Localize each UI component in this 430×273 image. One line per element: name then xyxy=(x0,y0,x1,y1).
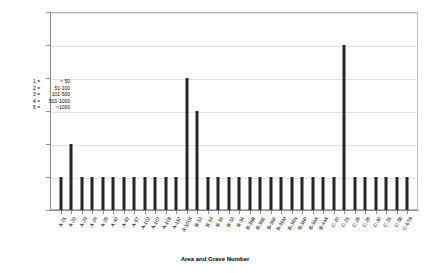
x-tick-label: A-107 xyxy=(150,216,161,230)
x-tick-mark xyxy=(397,211,398,214)
bar xyxy=(133,177,136,210)
legend-entry: 2 =51-100 xyxy=(33,85,70,92)
x-tick-mark xyxy=(61,211,62,214)
bar xyxy=(112,177,115,210)
bar xyxy=(269,177,272,210)
bar xyxy=(301,177,304,210)
x-tick-mark xyxy=(344,211,345,214)
x-tick-label: A-25 xyxy=(99,216,109,228)
legend-code: 4 = xyxy=(33,98,40,104)
x-tick-label: C-31 xyxy=(383,216,393,228)
bar xyxy=(374,177,377,210)
legend-range: >1000 xyxy=(40,104,70,111)
x-axis-title: Area and Grave Number xyxy=(0,255,430,263)
x-tick-label: A-22 xyxy=(68,216,78,228)
x-tick-mark xyxy=(260,211,261,214)
x-tick-label: B-32 xyxy=(225,216,235,228)
bar xyxy=(364,177,367,210)
x-tick-mark xyxy=(292,211,293,214)
bar xyxy=(385,177,388,210)
x-tick-mark xyxy=(355,211,356,214)
legend-range: < 50 xyxy=(40,78,70,85)
x-tick-mark xyxy=(208,211,209,214)
legend-range: 501-1000 xyxy=(40,98,70,105)
x-tick-mark xyxy=(92,211,93,214)
legend-range: 51-100 xyxy=(40,85,70,92)
x-tick-label: A-40 xyxy=(110,216,120,228)
legend: 1 =< 502 =51-1003 =101-5004 =501-10005 =… xyxy=(33,78,70,111)
x-tick-mark xyxy=(250,211,251,214)
bar xyxy=(206,177,209,210)
x-tick-label: B-36N xyxy=(287,216,298,231)
x-tick-mark xyxy=(365,211,366,214)
x-tick-label: C-26 xyxy=(362,216,372,228)
bar xyxy=(70,144,73,210)
x-tick-label: C-30 xyxy=(373,216,383,228)
x-tick-label: C-25 xyxy=(351,216,361,228)
bar xyxy=(238,177,241,210)
x-tick-mark xyxy=(271,211,272,214)
x-tick-mark xyxy=(239,211,240,214)
bar xyxy=(311,177,314,210)
x-tick-mark xyxy=(103,211,104,214)
bar xyxy=(101,177,104,210)
x-tick-mark xyxy=(145,211,146,214)
x-tick-label: B-36E xyxy=(255,216,266,231)
x-tick-label: A-102 xyxy=(140,216,151,230)
legend-code: 1 = xyxy=(33,78,40,84)
x-tick-mark xyxy=(229,211,230,214)
x-tick-labels: A-21A-22A-23A-24A-25A-40A-82A-87A-102A-1… xyxy=(50,211,418,257)
x-tick-label: B-38A xyxy=(308,216,319,231)
x-tick-label: A-108 xyxy=(161,216,172,230)
bar xyxy=(332,177,335,210)
bar xyxy=(185,78,188,210)
bar xyxy=(322,177,325,210)
x-tick-mark xyxy=(281,211,282,214)
bar xyxy=(280,177,283,210)
bar xyxy=(164,177,167,210)
x-tick-label: C-21 xyxy=(341,216,351,228)
bar-series xyxy=(50,12,418,210)
x-tick-label: B-36M xyxy=(276,216,288,231)
x-tick-mark xyxy=(323,211,324,214)
x-tick-label: B-12 xyxy=(194,216,204,228)
x-tick-label: A-1004 xyxy=(181,216,193,232)
legend-range: 101-500 xyxy=(40,91,70,98)
x-tick-mark xyxy=(113,211,114,214)
x-tick-mark xyxy=(176,211,177,214)
x-tick-mark xyxy=(334,211,335,214)
x-tick-label: A-82 xyxy=(120,216,130,228)
x-tick-mark xyxy=(197,211,198,214)
bar xyxy=(406,177,409,210)
bar xyxy=(290,177,293,210)
legend-code: 5 = xyxy=(33,104,40,110)
bar xyxy=(259,177,262,210)
bar-chart: 0123456 A-21A-22A-23A-24A-25A-40A-82A-87… xyxy=(0,0,430,273)
x-tick-label: A-24 xyxy=(89,216,99,228)
x-tick-mark xyxy=(155,211,156,214)
bar xyxy=(217,177,220,210)
bar xyxy=(154,177,157,210)
bar xyxy=(248,177,251,210)
x-tick-mark xyxy=(124,211,125,214)
legend-entry: 1 =< 50 xyxy=(33,78,70,85)
legend-entry: 3 =101-500 xyxy=(33,91,70,98)
bar xyxy=(91,177,94,210)
x-tick-mark xyxy=(134,211,135,214)
bar xyxy=(80,177,83,210)
x-tick-label: C-20 xyxy=(330,216,340,228)
bar xyxy=(196,111,199,210)
legend-code: 2 = xyxy=(33,85,40,91)
x-tick-label: B-36P xyxy=(297,216,308,231)
bar xyxy=(353,177,356,210)
x-tick-mark xyxy=(313,211,314,214)
x-tick-label: A-21 xyxy=(57,216,67,228)
x-tick-mark xyxy=(407,211,408,214)
bar xyxy=(343,45,346,210)
bar xyxy=(143,177,146,210)
x-tick-mark xyxy=(218,211,219,214)
legend-entry: 4 =501-1000 xyxy=(33,98,70,105)
x-tick-mark xyxy=(71,211,72,214)
x-tick-label: B-16 xyxy=(215,216,225,228)
x-tick-mark xyxy=(302,211,303,214)
